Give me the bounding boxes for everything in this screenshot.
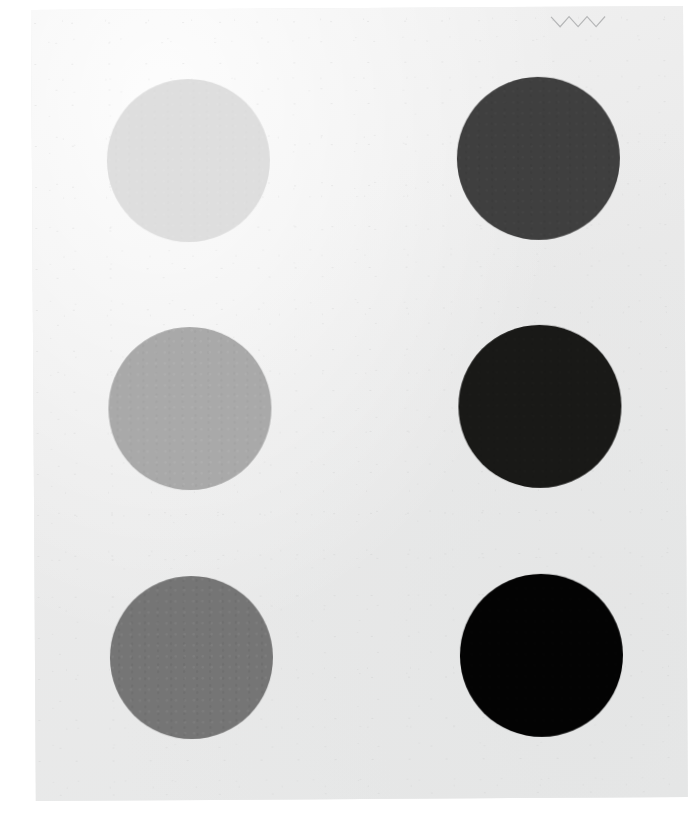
swatch-cell-6	[450, 558, 631, 752]
swatch-cell-1	[97, 63, 278, 257]
gray-swatch-circle-2	[456, 77, 620, 241]
swatch-cell-3	[99, 312, 280, 506]
swatch-grid	[97, 61, 631, 754]
swatch-cell-4	[449, 310, 630, 504]
swatch-cell-5	[100, 560, 281, 754]
swatch-cell-2	[447, 61, 628, 255]
gray-swatch-circle-6	[459, 573, 623, 737]
zigzag-mark-icon	[549, 13, 609, 29]
gray-swatch-circle-4	[457, 325, 621, 489]
gray-swatch-circle-3	[107, 327, 271, 491]
gray-swatch-circle-5	[109, 575, 273, 739]
scanned-paper-sheet	[31, 6, 688, 801]
gray-swatch-circle-1	[106, 79, 270, 243]
